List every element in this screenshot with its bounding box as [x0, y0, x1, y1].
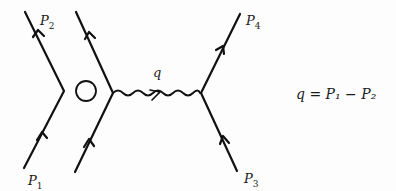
arrow-p1-icon — [37, 132, 47, 140]
label-p3: P3 — [244, 172, 258, 189]
p4-fermion-line — [201, 14, 240, 93]
circled-dot-icon — [76, 81, 96, 101]
p3-fermion-line — [201, 93, 237, 171]
label-p2: P2 — [40, 14, 54, 31]
momentum-equation: q = P₁ − P₂ — [296, 86, 376, 102]
label-p4: P4 — [246, 14, 260, 31]
label-q: q — [153, 66, 161, 79]
label-p1: P1 — [28, 174, 42, 191]
feynman-diagram: P2 P1 q P4 P3 q = P₁ − P₂ — [0, 0, 396, 191]
